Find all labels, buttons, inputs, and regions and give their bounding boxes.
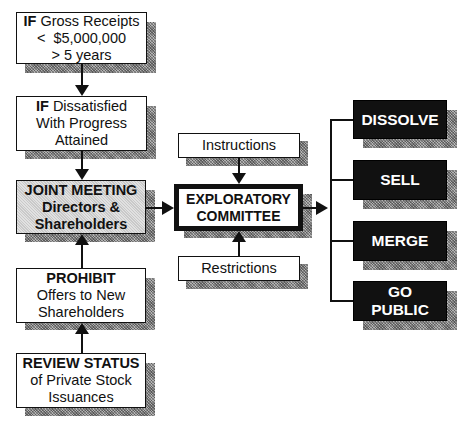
- arrow-up-icon: [75, 234, 89, 245]
- review-status-title: REVIEW STATUS: [22, 355, 139, 372]
- dissatisfied-line3: Attained: [55, 132, 108, 149]
- sell-box: SELL: [353, 160, 447, 200]
- prohibit-title: PROHIBIT: [46, 270, 115, 287]
- connector-line: [81, 334, 83, 353]
- dissatisfied-box: IF Dissatisfied With Progress Attained: [16, 96, 147, 151]
- bracket-branch-sell: [330, 179, 353, 181]
- connector-line: [238, 158, 240, 174]
- bracket-branch-dissolve: [330, 119, 353, 121]
- connector-line: [81, 64, 83, 86]
- connector-line: [238, 242, 240, 256]
- dissolve-box: DISSOLVE: [353, 100, 447, 139]
- go-public-line1: GO: [388, 283, 412, 301]
- arrow-up-icon: [232, 231, 246, 242]
- prohibit-line2: Offers to New: [37, 287, 125, 304]
- review-status-line2: of Private Stock: [30, 372, 132, 389]
- bracket-branch-go-public: [330, 300, 353, 302]
- instructions-label: Instructions: [202, 137, 276, 154]
- arrow-right-icon: [162, 201, 174, 215]
- review-status-box: REVIEW STATUS of Private Stock Issuances: [16, 353, 146, 408]
- exploratory-committee-box: EXPLORATORY COMMITTEE: [174, 184, 303, 231]
- dissatisfied-label: Dissatisfied: [49, 98, 127, 114]
- connector-line: [303, 207, 317, 209]
- review-status-line3: Issuances: [48, 389, 113, 406]
- dissolve-label: DISSOLVE: [361, 111, 438, 129]
- if-keyword: IF: [23, 13, 36, 29]
- dissatisfied-line2: With Progress: [36, 115, 127, 132]
- go-public-box: GO PUBLIC: [353, 281, 447, 321]
- joint-meeting-line3: Shareholders: [35, 216, 128, 233]
- restrictions-label: Restrictions: [201, 260, 277, 277]
- connector-line: [81, 151, 83, 170]
- bracket-vertical: [330, 119, 332, 301]
- arrow-down-icon: [75, 169, 89, 180]
- go-public-line2: PUBLIC: [371, 301, 429, 319]
- prohibit-line3: Shareholders: [38, 304, 124, 321]
- merge-label: MERGE: [372, 232, 429, 250]
- joint-meeting-line2: Directors &: [42, 199, 120, 216]
- arrow-up-icon: [75, 323, 89, 334]
- sell-label: SELL: [380, 171, 420, 189]
- joint-meeting-title: JOINT MEETING: [25, 182, 138, 199]
- connector-line: [81, 245, 83, 268]
- restrictions-box: Restrictions: [178, 256, 300, 281]
- if-keyword: IF: [36, 98, 49, 114]
- years-threshold: > 5 years: [51, 47, 111, 64]
- committee-line1: EXPLORATORY: [186, 191, 291, 208]
- arrow-down-icon: [75, 85, 89, 96]
- merge-box: MERGE: [353, 221, 447, 261]
- gross-receipts-box: IF Gross Receipts < $5,000,000 > 5 years: [16, 12, 147, 64]
- instructions-box: Instructions: [178, 133, 300, 158]
- receipts-threshold: < $5,000,000: [37, 30, 126, 47]
- joint-meeting-box: JOINT MEETING Directors & Shareholders: [16, 180, 146, 234]
- arrow-down-icon: [232, 173, 246, 184]
- bracket-branch-merge: [330, 240, 353, 242]
- gross-receipts-label: Gross Receipts: [36, 13, 139, 29]
- connector-line: [146, 207, 163, 209]
- committee-line2: COMMITTEE: [197, 208, 281, 225]
- prohibit-box: PROHIBIT Offers to New Shareholders: [16, 268, 146, 323]
- arrow-right-icon: [316, 201, 328, 215]
